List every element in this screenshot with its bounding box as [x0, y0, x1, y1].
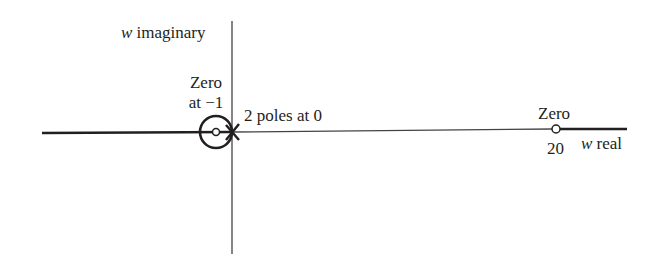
real-axis-text: real [597, 134, 622, 153]
zero-right-label: Zero [538, 105, 570, 123]
zero-left-line1: Zero [183, 74, 229, 92]
locus-left-segment [42, 132, 232, 133]
real-axis-var: w [581, 134, 592, 153]
zero-marker-right [552, 125, 560, 133]
zero-right-value: 20 [547, 140, 564, 158]
imaginary-axis-label: w imaginary [121, 24, 206, 42]
imaginary-axis-var: w [121, 23, 132, 42]
zero-left-annotation: Zero at −1 [183, 74, 229, 112]
root-locus-diagram [0, 0, 667, 264]
imaginary-axis-text: imaginary [137, 23, 206, 42]
poles-annotation: 2 poles at 0 [244, 107, 322, 125]
zero-marker-left [213, 129, 220, 136]
real-axis-thin [232, 129, 553, 132]
zero-left-line2: at −1 [183, 94, 229, 112]
real-axis-label: w real [581, 135, 622, 153]
